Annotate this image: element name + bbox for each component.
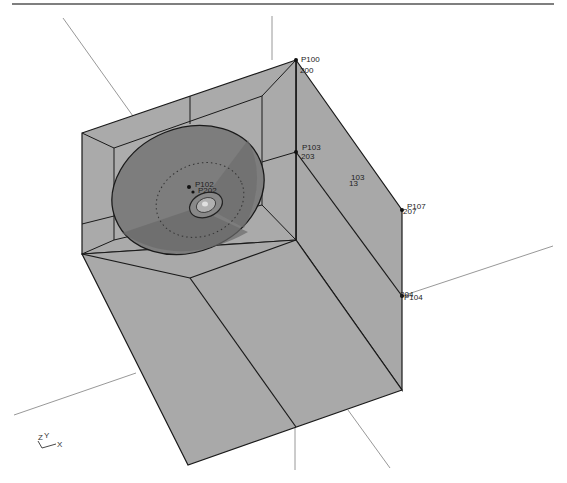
vertex-marker[interactable] <box>294 150 298 154</box>
svg-text:X: X <box>57 440 63 449</box>
svg-text:207: 207 <box>403 207 417 216</box>
svg-text:Y: Y <box>44 431 50 440</box>
svg-text:P100: P100 <box>301 55 320 64</box>
svg-text:200: 200 <box>300 66 314 75</box>
svg-text:P202: P202 <box>198 186 217 195</box>
svg-text:P104: P104 <box>404 293 423 302</box>
axis-triad: Z Y X <box>38 431 63 449</box>
box-model[interactable] <box>82 60 402 465</box>
svg-text:203: 203 <box>301 152 315 161</box>
svg-text:13: 13 <box>349 179 358 188</box>
vertex-marker[interactable] <box>187 185 191 189</box>
3d-viewport[interactable]: P100 200 P103 203 P107 207 204 P104 P102… <box>0 0 567 483</box>
svg-text:Z: Z <box>38 433 43 442</box>
svg-text:P103: P103 <box>302 143 321 152</box>
vertex-marker[interactable] <box>191 190 194 193</box>
vertex-marker[interactable] <box>294 58 298 62</box>
